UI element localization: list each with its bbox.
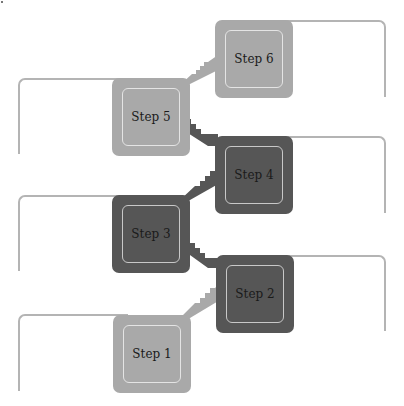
step-1-label: Step 1 [132, 347, 171, 361]
step-3-box: Step 3 [112, 195, 190, 273]
step-4-inner: Step 4 [225, 146, 283, 204]
step-4-label: Step 4 [234, 168, 273, 182]
step-2-label: Step 2 [235, 287, 274, 301]
connector-1-2 [180, 283, 220, 318]
step-2-box: Step 2 [216, 255, 294, 333]
step-2-inner: Step 2 [226, 265, 284, 323]
step-4-box: Step 4 [215, 136, 293, 214]
step-6-box: Step 6 [215, 20, 293, 98]
step-1-box: Step 1 [113, 315, 191, 393]
staircase-connectors [0, 0, 404, 406]
step-3-inner: Step 3 [122, 205, 180, 263]
step-6-inner: Step 6 [225, 30, 283, 88]
step-1-inner: Step 1 [123, 325, 181, 383]
step-3-label: Step 3 [131, 227, 170, 241]
step-6-label: Step 6 [234, 52, 273, 66]
step-5-inner: Step 5 [122, 88, 180, 146]
step-5-label: Step 5 [131, 110, 170, 124]
step-5-box: Step 5 [112, 78, 190, 156]
